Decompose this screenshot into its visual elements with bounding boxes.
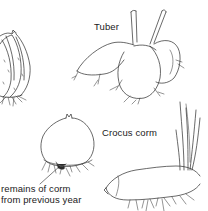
remains-label-line-2: from previous year bbox=[1, 194, 81, 205]
crocus-corm-drawing bbox=[40, 114, 94, 184]
tuber-drawing bbox=[72, 10, 184, 104]
tuber-label: Tuber bbox=[94, 21, 119, 32]
botanical-illustration: Tuber Crocus corm remains of corm from p… bbox=[0, 0, 208, 211]
bulb-drawing bbox=[0, 30, 30, 106]
crocus-corm-label: Crocus corm bbox=[102, 127, 157, 138]
remains-label-line-1: remains of corm bbox=[1, 183, 81, 194]
remains-of-corm-label: remains of corm from previous year bbox=[1, 183, 81, 205]
rhizome-drawing bbox=[104, 102, 200, 211]
